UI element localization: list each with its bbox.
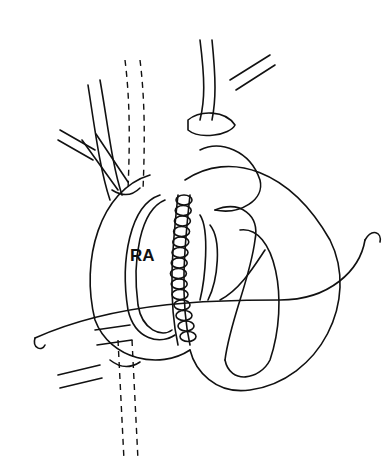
- surgical-illustration: RA: [0, 0, 389, 462]
- heart-line-art: [0, 0, 389, 462]
- suture-line: [170, 195, 196, 345]
- label-ra: RA: [130, 246, 155, 266]
